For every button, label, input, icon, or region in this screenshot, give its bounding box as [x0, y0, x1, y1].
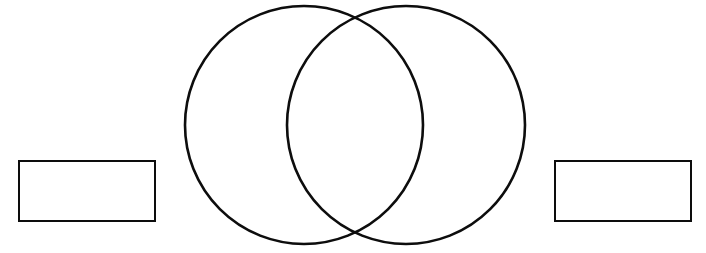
venn-diagram-worksheet [0, 0, 706, 253]
venn-right-circle[interactable] [287, 6, 525, 244]
left-label-box[interactable] [18, 160, 156, 222]
venn-left-circle[interactable] [185, 6, 423, 244]
right-label-box[interactable] [554, 160, 692, 222]
